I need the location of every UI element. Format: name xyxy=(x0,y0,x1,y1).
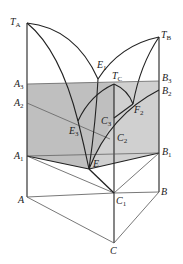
curve-TA-E1 xyxy=(27,23,98,79)
label-A3: A3 xyxy=(13,78,24,91)
label-A1: A1 xyxy=(13,150,24,163)
label-C1: C1 xyxy=(116,195,127,208)
base-C1B xyxy=(114,192,159,193)
label-E: E xyxy=(92,158,99,169)
base-AC1 xyxy=(27,193,114,197)
label-A: A xyxy=(17,194,25,205)
phase-diagram: TA TB TC E1 E3 E A3 A2 A1 A B3 B2 B1 B C… xyxy=(0,0,183,264)
base-AC xyxy=(27,197,114,243)
label-C: C xyxy=(110,245,117,256)
label-TB: TB xyxy=(161,29,172,42)
label-A2: A2 xyxy=(13,97,24,110)
label-E1: E1 xyxy=(96,59,107,72)
label-B2: B2 xyxy=(162,85,172,98)
label-B1: B1 xyxy=(162,146,172,159)
curve-TB-E1 xyxy=(98,37,159,79)
label-TC: TC xyxy=(112,70,123,83)
label-B3: B3 xyxy=(162,72,172,85)
proj-E-C1 xyxy=(89,169,114,193)
label-B: B xyxy=(161,186,167,197)
label-TA: TA xyxy=(10,16,21,29)
